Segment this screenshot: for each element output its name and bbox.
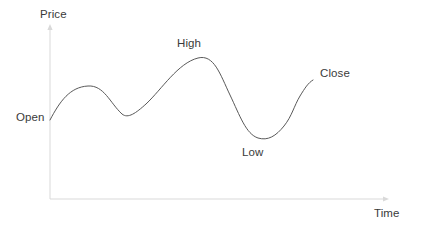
chart-canvas: Price Time Open High Low Close (0, 0, 422, 229)
arrow-right-icon (383, 196, 389, 201)
y-axis-title: Price (40, 9, 67, 21)
x-axis-title: Time (374, 208, 400, 220)
annotation-low: Low (242, 147, 263, 159)
price-curve (50, 57, 313, 138)
annotation-close: Close (320, 68, 350, 80)
chart-svg (0, 0, 422, 229)
annotation-high: High (177, 38, 201, 50)
annotation-open: Open (16, 112, 45, 124)
arrow-up-icon (47, 24, 52, 30)
